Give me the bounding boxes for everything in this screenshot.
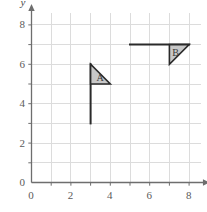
tick-marks xyxy=(28,25,189,186)
y-tick-label-6: 6 xyxy=(20,59,26,70)
coordinate-plane-figure: 0246802468 y x A B xyxy=(0,0,207,212)
axis-lines xyxy=(28,4,207,186)
gridlines xyxy=(32,13,201,182)
x-tick-label-6: 6 xyxy=(147,190,153,201)
y-tick-label-2: 2 xyxy=(20,138,26,149)
shape-label-b: B xyxy=(172,48,179,58)
shape-label-a: A xyxy=(97,73,104,83)
y-tick-label-8: 8 xyxy=(20,19,26,30)
y-tick-label-0: 0 xyxy=(20,177,26,188)
y-tick-label-4: 4 xyxy=(20,98,26,109)
y-axis-label: y xyxy=(21,0,26,8)
x-tick-label-4: 4 xyxy=(107,190,113,201)
x-tick-label-0: 0 xyxy=(28,190,34,201)
x-tick-label-8: 8 xyxy=(186,190,192,201)
x-tick-label-2: 2 xyxy=(68,190,74,201)
plot-canvas xyxy=(0,0,207,212)
